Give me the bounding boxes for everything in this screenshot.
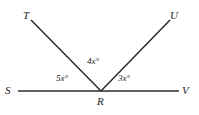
angle-label-middle-TRU: 4x° xyxy=(87,57,99,66)
angle-label-left-SRT: 5x° xyxy=(56,74,68,83)
point-label-U: U xyxy=(170,10,178,21)
angle-diagram-figure: T U S V R 4x° 5x° 3x° xyxy=(0,0,199,115)
point-label-T: T xyxy=(23,10,29,21)
point-label-S: S xyxy=(5,85,11,96)
ray-RU xyxy=(101,20,170,91)
angle-label-right-URV: 3x° xyxy=(118,74,130,83)
point-label-R: R xyxy=(97,96,104,107)
point-label-V: V xyxy=(182,85,189,96)
